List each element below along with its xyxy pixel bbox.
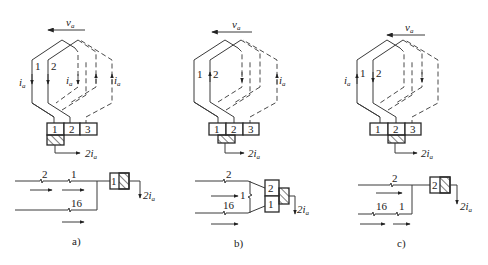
current-label: ia — [279, 74, 286, 88]
coil-1 — [194, 40, 238, 125]
brush — [47, 135, 64, 145]
svg-text:2: 2 — [268, 182, 274, 194]
velocity-arrow: va — [387, 21, 425, 35]
svg-text:16: 16 — [223, 199, 235, 211]
coil-2 — [48, 40, 78, 125]
svg-text:3: 3 — [85, 123, 91, 135]
current-label: ia — [66, 74, 73, 88]
svg-text:1: 1 — [240, 189, 246, 201]
commutation-diagram: va 1 2 ia ia ia 1 2 3 — [0, 0, 488, 265]
brush — [388, 135, 405, 143]
coil-1 — [357, 40, 400, 125]
brush — [218, 135, 235, 143]
svg-text:2: 2 — [231, 123, 237, 135]
brush-current-label: 2ia — [421, 147, 434, 161]
brush-current-label: 2ia — [248, 147, 261, 161]
coil-label: 1 — [197, 68, 203, 80]
caption-b: b) — [234, 237, 244, 250]
svg-text:2: 2 — [393, 123, 399, 135]
svg-text:3: 3 — [248, 123, 254, 135]
panel-b: va 1 2 ia 1 2 3 2ia 2 1 — [194, 18, 310, 250]
coil-label: 2 — [213, 68, 219, 80]
commutator-segments: 1 2 3 — [47, 123, 97, 135]
svg-text:2: 2 — [226, 168, 232, 180]
svg-text:16: 16 — [376, 200, 388, 212]
panel-c: va 1 2 ia 1 2 3 2ia 2 16 1 — [344, 21, 473, 250]
coil-2 — [373, 40, 403, 125]
svg-text:2: 2 — [392, 172, 398, 184]
svg-text:2ia: 2ia — [143, 189, 156, 203]
coil-label: 2 — [376, 67, 382, 79]
svg-text:16: 16 — [71, 197, 83, 209]
caption-a: a) — [72, 235, 81, 248]
svg-text:3: 3 — [410, 123, 416, 135]
equivalent-circuit: 2 1 16 2 1 2ia — [195, 168, 310, 224]
panel-a: va 1 2 ia ia ia 1 2 3 — [15, 16, 156, 248]
svg-text:2: 2 — [42, 168, 48, 180]
svg-text:1: 1 — [268, 198, 274, 210]
svg-text:2: 2 — [69, 123, 75, 135]
svg-text:1: 1 — [111, 175, 117, 187]
svg-text:va: va — [405, 21, 414, 35]
caption-c: c) — [397, 237, 406, 250]
svg-text:1: 1 — [399, 200, 405, 212]
svg-text:2: 2 — [432, 179, 438, 191]
coil-label: 1 — [35, 60, 41, 72]
velocity-arrow: va — [212, 18, 252, 32]
current-label: ia — [344, 74, 351, 88]
commutator-segments: 1 2 3 — [370, 123, 421, 135]
equivalent-circuit: 2 1 16 1 2ia — [15, 168, 156, 222]
svg-text:2ia: 2ia — [297, 203, 310, 217]
current-label: ia — [19, 76, 26, 90]
svg-text:1: 1 — [71, 168, 77, 180]
coil-2 — [210, 40, 241, 125]
brush-current-label: 2ia — [85, 147, 98, 161]
velocity-arrow: va — [48, 16, 85, 30]
svg-text:1: 1 — [214, 123, 220, 135]
current-label: ia — [114, 74, 121, 88]
coil-label: 1 — [360, 67, 366, 79]
svg-text:2ia: 2ia — [460, 200, 473, 214]
svg-text:1: 1 — [52, 123, 58, 135]
svg-text:va: va — [66, 16, 75, 30]
svg-text:va: va — [232, 18, 241, 32]
coil-label: 2 — [51, 60, 57, 72]
equivalent-circuit: 2 16 1 2 2ia — [358, 172, 473, 224]
commutator-segments: 1 2 3 — [209, 123, 259, 135]
svg-text:1: 1 — [375, 123, 381, 135]
